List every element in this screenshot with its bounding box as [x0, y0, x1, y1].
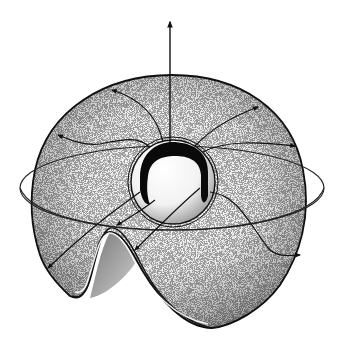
- diagram-canvas: [0, 0, 344, 348]
- toroid-illustration: [0, 0, 344, 348]
